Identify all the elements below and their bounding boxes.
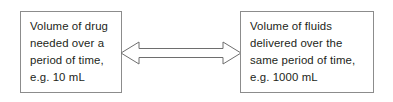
concept-box-drug-volume-text: Volume of drug needed over a period of t… xyxy=(30,18,116,86)
concept-box-drug-volume: Volume of drug needed over a period of t… xyxy=(20,11,122,93)
concept-box-fluid-volume-text: Volume of fluids delivered over the same… xyxy=(250,18,368,86)
diagram-canvas: Volume of drug needed over a period of t… xyxy=(0,0,393,102)
double-headed-arrow-icon xyxy=(120,39,242,67)
concept-box-fluid-volume: Volume of fluids delivered over the same… xyxy=(240,11,374,93)
